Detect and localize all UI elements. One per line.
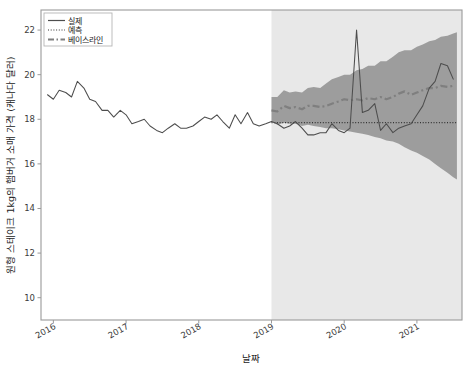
x-tick-label-2019: 2019 [252, 321, 276, 340]
legend-label-forecast: 예측 [68, 25, 82, 35]
y-tick-label-22: 22 [24, 25, 35, 35]
y-tick-label-16: 16 [24, 159, 35, 169]
x-axis: 201620172018201920202021 [34, 320, 421, 341]
y-tick-label-10: 10 [24, 293, 35, 303]
y-axis: 10121416182022 [24, 25, 41, 303]
x-tick-label-2020: 2020 [324, 321, 348, 340]
chart-figure: 10121416182022 201620172018201920202021 … [0, 0, 471, 368]
legend-label-actual: 실제 [68, 16, 82, 26]
y-tick-label-12: 12 [24, 248, 35, 258]
x-tick-label-2016: 2016 [34, 321, 58, 340]
y-tick-label-20: 20 [24, 70, 35, 80]
x-axis-title: 날짜 [242, 353, 260, 364]
y-tick-label-18: 18 [24, 114, 35, 124]
y-axis-title: 원형 스테이크 1kg의 햄버거 소매 가격 (캐나다 달러) [5, 56, 16, 273]
x-tick-label-2018: 2018 [179, 321, 203, 340]
line-chart: 10121416182022 201620172018201920202021 … [0, 0, 471, 368]
x-tick-label-2021: 2021 [397, 321, 421, 340]
x-tick-label-2017: 2017 [106, 321, 130, 340]
y-tick-label-14: 14 [24, 203, 35, 213]
chart-legend: 실제 예측 베이스라인 [44, 13, 112, 46]
legend-label-baseline: 베이스라인 [68, 35, 103, 45]
